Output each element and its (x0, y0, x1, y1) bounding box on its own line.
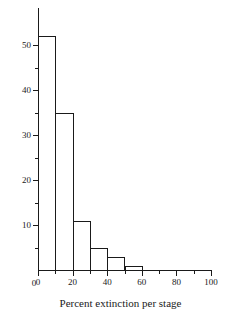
x-tick (194, 271, 195, 274)
y-tick (35, 203, 38, 204)
x-tick (90, 271, 91, 274)
y-tick-label: 50 (22, 41, 31, 50)
y-tick (35, 158, 38, 159)
y-tick-label: 40 (22, 86, 31, 95)
x-tick (73, 271, 74, 276)
x-axis-title: Percent extinction per stage (0, 298, 241, 309)
histogram-bar (90, 248, 108, 271)
x-tick-label: 40 (103, 278, 112, 287)
y-tick (35, 248, 38, 249)
y-tick (33, 45, 38, 46)
histogram-figure: 020406080100 01020304050 Percent extinct… (0, 0, 241, 330)
x-tick (211, 271, 212, 276)
histogram-bar (73, 221, 91, 271)
y-tick-label: 10 (22, 221, 31, 230)
x-tick-label: 100 (204, 278, 218, 287)
x-tick-label: 20 (68, 278, 77, 287)
y-tick (35, 113, 38, 114)
y-tick (33, 225, 38, 226)
x-tick (107, 271, 108, 276)
y-tick-label: 20 (22, 176, 31, 185)
y-tick (35, 68, 38, 69)
plot-area: 020406080100 01020304050 (38, 8, 211, 271)
y-tick-label: 30 (22, 131, 31, 140)
y-tick (33, 180, 38, 181)
x-tick (55, 271, 56, 274)
y-tick-label: 0 (32, 279, 37, 288)
x-tick (38, 271, 39, 276)
y-tick (33, 135, 38, 136)
x-tick (125, 271, 126, 274)
histogram-bar (38, 36, 56, 270)
x-tick-label: 60 (137, 278, 146, 287)
x-tick-label: 80 (172, 278, 181, 287)
histogram-bar (125, 266, 143, 271)
x-tick (142, 271, 143, 276)
x-tick (176, 271, 177, 276)
histogram-bar (107, 257, 125, 271)
y-tick (33, 90, 38, 91)
x-tick (159, 271, 160, 274)
histogram-bar (55, 113, 73, 271)
